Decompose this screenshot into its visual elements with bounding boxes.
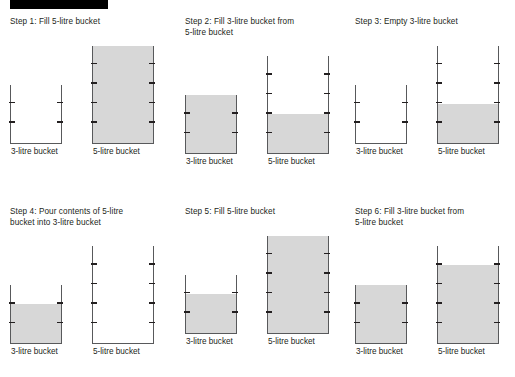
tick-right-1 xyxy=(232,132,238,134)
tick-left-2 xyxy=(436,102,442,104)
bucket-label-small-5: 3-litre bucket xyxy=(186,337,233,347)
bucket-slot-large-1: 5-litre bucket xyxy=(92,46,154,144)
bucket-3-litre-5: 3-litre bucket xyxy=(185,275,237,334)
tick-right-3 xyxy=(149,82,155,84)
tick-right-2 xyxy=(57,102,63,104)
bucket-3-litre-3: 3-litre bucket xyxy=(355,85,407,144)
tick-left-1 xyxy=(91,322,97,324)
bucket-5-litre-1: 5-litre bucket xyxy=(92,46,154,144)
bucket-5-litre-5: 5-litre bucket xyxy=(267,236,329,334)
bucket-row-4: 3-litre bucket 5-litre bucket xyxy=(10,228,182,366)
tick-right-2 xyxy=(402,302,408,304)
tick-left-2 xyxy=(9,102,15,104)
bucket-label-small-4: 3-litre bucket xyxy=(11,347,58,357)
step-title-4: Step 4: Pour contents of 5-litre bucket … xyxy=(10,207,182,228)
tick-left-1 xyxy=(91,121,97,123)
tick-right-4 xyxy=(324,73,330,75)
tick-left-1 xyxy=(9,322,15,324)
tick-right-3 xyxy=(324,272,330,274)
tick-right-2 xyxy=(494,102,500,104)
tick-left-2 xyxy=(184,292,190,294)
bucket-label-large-2: 5-litre bucket xyxy=(268,157,315,167)
bucket-label-small-1: 3-litre bucket xyxy=(11,147,58,157)
bucket-label-small-3: 3-litre bucket xyxy=(356,147,403,157)
bucket-slot-large-3: 5-litre bucket xyxy=(437,46,499,144)
bucket-slot-small-6: 3-litre bucket xyxy=(355,285,407,344)
liquid-fill-5-litre-6 xyxy=(438,265,498,343)
bucket-5-litre-6: 5-litre bucket xyxy=(437,246,499,344)
tick-left-2 xyxy=(266,112,272,114)
tick-left-3 xyxy=(91,82,97,84)
tick-right-4 xyxy=(494,63,500,65)
bucket-slot-small-4: 3-litre bucket xyxy=(10,285,62,344)
bucket-5-litre-4: 5-litre bucket xyxy=(92,246,154,344)
tick-right-1 xyxy=(402,322,408,324)
step-title-3: Step 3: Empty 3-litre bucket xyxy=(355,17,515,28)
redaction-bar xyxy=(10,0,108,9)
tick-left-3 xyxy=(91,283,97,285)
tick-left-1 xyxy=(184,132,190,134)
step-title-2: Step 2: Fill 3-litre bucket from 5-litre… xyxy=(185,17,357,38)
tick-left-4 xyxy=(436,63,442,65)
liquid-fill-5-litre-5 xyxy=(268,236,328,333)
tick-left-1 xyxy=(184,311,190,313)
step-panel-4: Step 4: Pour contents of 5-litre bucket … xyxy=(10,207,182,366)
tick-left-2 xyxy=(266,292,272,294)
tick-right-2 xyxy=(57,302,63,304)
tick-right-2 xyxy=(494,302,500,304)
tick-left-1 xyxy=(354,322,360,324)
liquid-fill-3-litre-2 xyxy=(186,95,236,153)
tick-right-1 xyxy=(149,121,155,123)
bucket-5-litre-2: 5-litre bucket xyxy=(267,56,329,154)
tick-right-1 xyxy=(232,311,238,313)
tick-left-2 xyxy=(9,302,15,304)
bucket-label-small-2: 3-litre bucket xyxy=(186,157,233,167)
tick-left-4 xyxy=(266,253,272,255)
step-panel-3: Step 3: Empty 3-litre bucket 3-litre buc… xyxy=(355,17,515,166)
tick-right-3 xyxy=(149,283,155,285)
tick-left-3 xyxy=(436,82,442,84)
tick-right-4 xyxy=(149,263,155,265)
tick-left-1 xyxy=(354,121,360,123)
tick-right-1 xyxy=(149,322,155,324)
bucket-row-1: 3-litre bucket 5-litre bucket xyxy=(10,28,182,166)
tick-left-1 xyxy=(436,322,442,324)
tick-right-4 xyxy=(494,263,500,265)
tick-left-4 xyxy=(436,263,442,265)
liquid-fill-3-litre-4 xyxy=(11,304,61,343)
tick-right-1 xyxy=(402,121,408,123)
liquid-fill-3-litre-5 xyxy=(186,294,236,333)
bucket-slot-large-5: 5-litre bucket xyxy=(267,236,329,334)
tick-right-2 xyxy=(149,102,155,104)
bucket-label-small-6: 3-litre bucket xyxy=(356,347,403,357)
tick-left-3 xyxy=(266,93,272,95)
tick-right-1 xyxy=(494,121,500,123)
tick-right-3 xyxy=(494,82,500,84)
bucket-label-large-6: 5-litre bucket xyxy=(438,347,485,357)
tick-right-3 xyxy=(494,283,500,285)
step-title-6: Step 6: Fill 3-litre bucket from 5-litre… xyxy=(355,207,515,228)
bucket-row-6: 3-litre bucket 5-litre bucket xyxy=(355,228,515,366)
tick-right-2 xyxy=(324,292,330,294)
liquid-fill-5-litre-3 xyxy=(438,104,498,143)
bucket-3-litre-1: 3-litre bucket xyxy=(10,85,62,144)
liquid-fill-3-litre-6 xyxy=(356,285,406,343)
bucket-slot-small-3: 3-litre bucket xyxy=(355,85,407,144)
bucket-slot-small-5: 3-litre bucket xyxy=(185,275,237,334)
bucket-row-5: 3-litre bucket 5-litre bucket xyxy=(185,218,357,356)
bucket-slot-large-2: 5-litre bucket xyxy=(267,56,329,154)
bucket-slot-large-6: 5-litre bucket xyxy=(437,246,499,344)
tick-right-2 xyxy=(149,302,155,304)
tick-right-3 xyxy=(324,93,330,95)
tick-right-1 xyxy=(324,311,330,313)
step-panel-6: Step 6: Fill 3-litre bucket from 5-litre… xyxy=(355,207,515,366)
step-title-1: Step 1: Fill 5-litre bucket xyxy=(10,17,182,28)
bucket-3-litre-6: 3-litre bucket xyxy=(355,285,407,344)
tick-right-1 xyxy=(324,132,330,134)
tick-left-2 xyxy=(184,112,190,114)
tick-left-4 xyxy=(266,73,272,75)
bucket-label-large-1: 5-litre bucket xyxy=(93,147,140,157)
tick-left-3 xyxy=(436,283,442,285)
bucket-slot-small-2: 3-litre bucket xyxy=(185,95,237,154)
tick-right-2 xyxy=(232,112,238,114)
